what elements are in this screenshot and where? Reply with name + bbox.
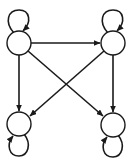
self-loop-top-right: [102, 10, 122, 33]
node-bottom-right: [101, 113, 125, 137]
self-loop-top-left: [8, 10, 28, 33]
node-bottom-left: [7, 112, 31, 136]
self-loop-bottom-left: [9, 134, 28, 156]
graph-diagram: [0, 0, 132, 165]
node-top-left: [7, 31, 31, 55]
node-top-right: [101, 31, 125, 55]
self-loop-bottom-right: [103, 135, 122, 157]
graph-svg: [0, 0, 132, 165]
